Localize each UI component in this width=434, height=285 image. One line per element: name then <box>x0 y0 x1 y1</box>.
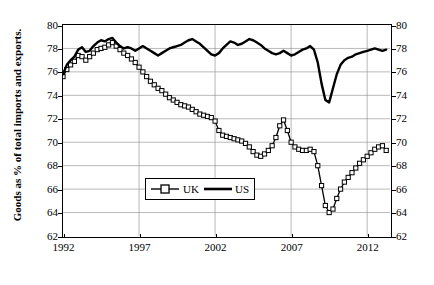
y-tick-mark <box>392 96 396 97</box>
series-marker-uk <box>145 74 149 78</box>
series-marker-uk <box>323 203 327 207</box>
y-tick-mark <box>58 72 62 73</box>
y-tick-mark <box>58 213 62 214</box>
legend-entry-us: US <box>204 183 249 195</box>
x-tick-mark <box>368 234 369 238</box>
y-tick-label-left: 64 <box>36 206 58 218</box>
x-tick-mark <box>64 234 65 238</box>
y-tick-mark <box>58 96 62 97</box>
x-tick-mark <box>140 234 141 238</box>
y-tick-label-left: 74 <box>36 89 58 101</box>
x-tick-mark <box>292 234 293 238</box>
series-marker-uk <box>278 124 282 128</box>
y-tick-label-right: 74 <box>396 89 418 101</box>
series-marker-uk <box>213 119 217 123</box>
y-tick-label-left: 80 <box>36 19 58 31</box>
y-tick-label-right: 70 <box>396 136 418 148</box>
series-marker-uk <box>247 145 251 149</box>
y-tick-mark <box>58 143 62 144</box>
series-marker-uk <box>289 140 293 144</box>
legend-label-uk: UK <box>183 183 199 195</box>
legend-content: UK US <box>146 179 254 199</box>
series-marker-uk <box>316 164 320 168</box>
series-marker-uk <box>274 135 278 139</box>
y-tick-mark <box>392 26 396 27</box>
y-tick-label-right: 76 <box>396 65 418 77</box>
series-marker-uk <box>281 118 285 122</box>
series-marker-uk <box>342 180 346 184</box>
y-tick-mark <box>58 119 62 120</box>
y-tick-label-left: 78 <box>36 42 58 54</box>
y-tick-mark <box>392 143 396 144</box>
x-tick-label: 2002 <box>202 241 230 253</box>
y-tick-mark <box>392 213 396 214</box>
series-marker-uk <box>312 150 316 154</box>
y-tick-mark <box>58 166 62 167</box>
y-tick-mark <box>58 190 62 191</box>
y-tick-label-left: 70 <box>36 136 58 148</box>
y-tick-label-right: 64 <box>396 206 418 218</box>
y-tick-mark <box>392 49 396 50</box>
y-tick-label-left: 76 <box>36 65 58 77</box>
y-tick-mark <box>392 72 396 73</box>
series-marker-uk <box>72 59 76 63</box>
y-tick-label-right: 80 <box>396 19 418 31</box>
y-tick-label-right: 72 <box>396 112 418 124</box>
x-tick-label: 2007 <box>278 241 306 253</box>
y-axis-label-text: Goods as % of total imports and exports. <box>11 29 23 222</box>
series-marker-uk <box>350 171 354 175</box>
series-marker-uk <box>338 187 342 191</box>
chart-canvas <box>63 25 390 236</box>
y-tick-label-right: 78 <box>396 42 418 54</box>
y-tick-mark <box>392 237 396 238</box>
series-marker-uk <box>354 166 358 170</box>
y-tick-label-left: 68 <box>36 159 58 171</box>
y-tick-label-right: 68 <box>396 159 418 171</box>
x-tick-label: 1992 <box>50 241 78 253</box>
legend-label-us: US <box>235 183 249 195</box>
series-line-us <box>63 38 386 102</box>
y-tick-mark <box>58 49 62 50</box>
series-marker-uk <box>217 128 221 132</box>
series-marker-uk <box>384 148 388 152</box>
y-tick-mark <box>392 119 396 120</box>
x-tick-label: 1997 <box>126 241 154 253</box>
y-tick-label-right: 66 <box>396 183 418 195</box>
y-tick-mark <box>58 237 62 238</box>
series-marker-uk <box>380 144 384 148</box>
legend-entry-uk: UK <box>151 183 199 195</box>
y-tick-label-left: 72 <box>36 112 58 124</box>
y-tick-label-right: 62 <box>396 230 418 242</box>
y-tick-label-left: 66 <box>36 183 58 195</box>
x-tick-label: 2012 <box>354 241 382 253</box>
series-marker-uk <box>285 128 289 132</box>
plot-area <box>62 24 392 238</box>
series-marker-uk <box>319 183 323 187</box>
y-tick-mark <box>58 26 62 27</box>
y-tick-mark <box>392 190 396 191</box>
series-marker-uk <box>346 175 350 179</box>
chart-figure: Goods as % of total imports and exports.… <box>0 0 434 285</box>
y-tick-mark <box>392 166 396 167</box>
series-marker-uk <box>141 70 145 74</box>
series-marker-uk <box>270 144 274 148</box>
series-marker-uk <box>137 65 141 69</box>
series-marker-uk <box>335 196 339 200</box>
series-marker-uk <box>133 60 137 64</box>
chart-legend: UK US <box>145 178 255 200</box>
x-tick-mark <box>216 234 217 238</box>
y-axis-label: Goods as % of total imports and exports. <box>2 0 32 250</box>
series-marker-uk <box>266 148 270 152</box>
y-tick-label-left: 62 <box>36 230 58 242</box>
series-marker-uk <box>331 207 335 211</box>
